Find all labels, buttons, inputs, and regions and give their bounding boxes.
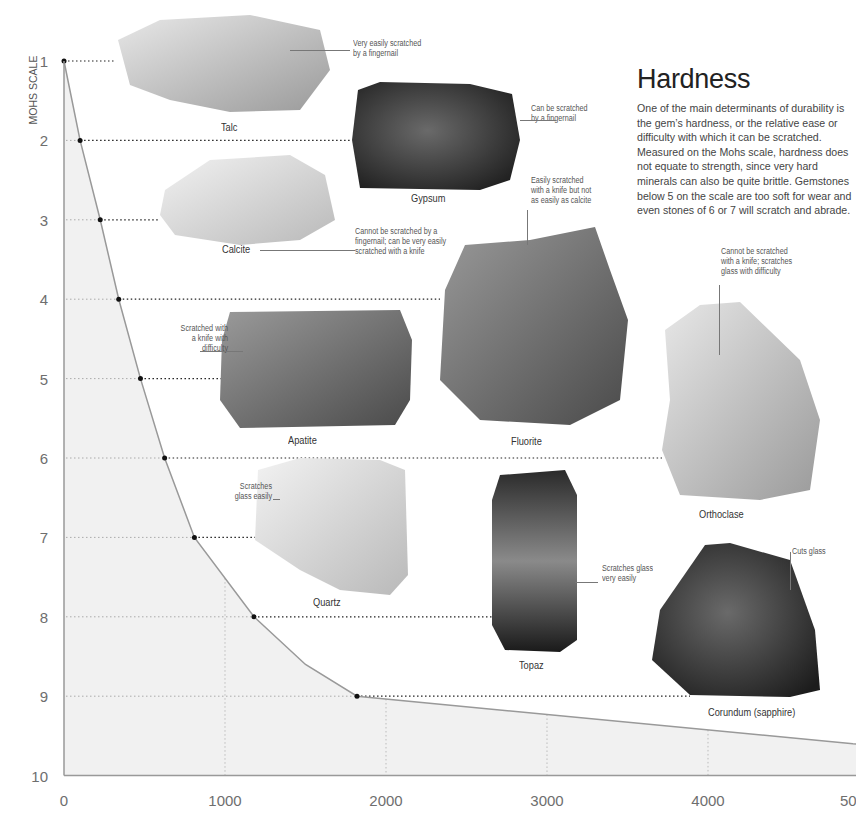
intro-paragraph: One of the main determinants of durabili…	[637, 101, 852, 218]
corundum-specimen	[652, 543, 820, 697]
mineral-label-calcite: Calcite	[222, 243, 250, 255]
data-point-gypsum	[78, 138, 83, 143]
note-leader-line	[200, 351, 243, 352]
y-tick-label: 4	[40, 291, 48, 308]
hardness-note-talc: Very easily scratched by a fingernail	[353, 38, 421, 58]
note-leader-line	[273, 499, 280, 500]
hardness-note-orthoclase: Cannot be scratched with a knife; scratc…	[721, 246, 792, 276]
x-tick-label: 50	[840, 792, 856, 809]
hardness-note-fluorite: Easily scratched with a knife but not as…	[531, 175, 591, 205]
mineral-label-fluorite: Fluorite	[511, 435, 542, 447]
gypsum-specimen	[352, 82, 520, 190]
mineral-label-corundum: Corundum (sapphire)	[708, 706, 795, 718]
hardness-note-calcite: Cannot be scratched by a fingernail; can…	[355, 226, 446, 256]
note-leader-line	[719, 285, 720, 355]
x-tick-label: 1000	[208, 792, 241, 809]
mineral-label-quartz: Quartz	[313, 596, 341, 608]
y-tick-label: 2	[40, 132, 48, 149]
data-point-calcite	[98, 217, 103, 222]
hardness-note-quartz: Scratches glass easily	[235, 481, 272, 501]
header-block: Hardness One of the main determinants of…	[637, 64, 852, 218]
note-leader-line	[290, 50, 350, 51]
y-tick-label: 7	[40, 529, 48, 546]
data-point-quartz	[192, 535, 197, 540]
mineral-label-talc: Talc	[221, 121, 237, 133]
x-tick-label: 3000	[530, 792, 563, 809]
data-point-orthoclase	[162, 456, 167, 461]
y-tick-label: 6	[40, 450, 48, 467]
page-title: Hardness	[637, 64, 852, 95]
mineral-label-topaz: Topaz	[519, 659, 544, 671]
y-tick-label: 8	[40, 609, 48, 626]
y-tick-label: 9	[40, 688, 48, 705]
orthoclase-specimen	[662, 302, 820, 500]
x-tick-label: 4000	[691, 792, 724, 809]
x-tick-label: 2000	[369, 792, 402, 809]
y-tick-label: 10	[31, 768, 48, 785]
note-leader-line	[527, 210, 528, 245]
topaz-specimen	[492, 470, 577, 652]
data-point-topaz	[251, 614, 256, 619]
x-tick-label: 0	[60, 792, 68, 809]
y-axis-title: MOHS SCALE	[27, 56, 39, 125]
data-point-fluorite	[116, 297, 121, 302]
note-leader-line	[260, 250, 355, 251]
data-point-corundum	[355, 694, 360, 699]
note-leader-line	[520, 120, 556, 121]
hardness-note-corundum: Cuts glass	[792, 546, 826, 556]
hardness-note-topaz: Scratches glass very easily	[602, 563, 653, 583]
apatite-specimen	[220, 310, 412, 428]
y-tick-label: 5	[40, 371, 48, 388]
calcite-specimen	[160, 155, 335, 245]
quartz-specimen	[255, 458, 408, 595]
talc-specimen	[118, 15, 330, 112]
mineral-label-apatite: Apatite	[288, 434, 317, 446]
note-leader-line	[575, 582, 598, 583]
hardness-note-apatite: Scratched with a knife with difficulty	[153, 323, 228, 353]
data-point-apatite	[138, 376, 143, 381]
mineral-label-orthoclase: Orthoclase	[699, 508, 744, 520]
y-tick-label: 1	[40, 53, 48, 70]
note-leader-line	[790, 552, 791, 590]
fluorite-specimen	[440, 227, 628, 425]
mineral-label-gypsum: Gypsum	[411, 192, 445, 204]
y-tick-label: 3	[40, 212, 48, 229]
